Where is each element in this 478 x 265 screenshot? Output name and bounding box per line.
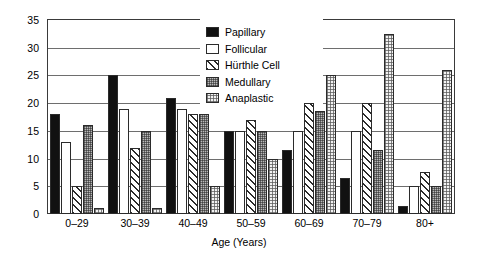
bar xyxy=(304,103,314,214)
bar xyxy=(257,131,267,214)
bar xyxy=(108,75,118,214)
bar-chart: 05101520253035 0–2930–3940–4950–5960–697… xyxy=(0,0,478,265)
bar xyxy=(442,70,452,214)
y-axis: 05101520253035 xyxy=(0,0,47,265)
x-axis-tick-label: 60–69 xyxy=(294,217,323,229)
legend-item: Medullary xyxy=(206,74,318,91)
bar xyxy=(282,150,292,214)
x-axis-tick-label: 0–29 xyxy=(65,217,88,229)
legend: PapillaryFollicularHürthle CellMedullary… xyxy=(200,19,323,112)
bar xyxy=(235,131,245,214)
bar xyxy=(326,75,336,214)
legend-item: Papillary xyxy=(206,24,318,41)
x-axis: 0–2930–3940–4950–5960–6970–7980+ xyxy=(48,217,454,237)
bar xyxy=(141,131,151,214)
bar xyxy=(188,114,198,214)
bar xyxy=(431,186,441,214)
legend-item: Follicular xyxy=(206,41,318,58)
y-axis-tick-label: 25 xyxy=(27,69,39,81)
bar xyxy=(373,150,383,214)
y-axis-tick-label: 35 xyxy=(27,14,39,26)
x-axis-tick-label: 70–79 xyxy=(352,217,381,229)
legend-swatch-icon xyxy=(206,27,219,37)
bar xyxy=(409,186,419,214)
legend-label: Medullary xyxy=(225,76,271,88)
bar xyxy=(398,206,408,214)
bar xyxy=(268,159,278,214)
legend-item: Anaplastic xyxy=(206,90,318,107)
bar xyxy=(83,125,93,214)
bar xyxy=(50,114,60,214)
y-axis-tick-label: 30 xyxy=(27,42,39,54)
bar xyxy=(246,120,256,214)
bar-group xyxy=(108,20,163,214)
bar xyxy=(420,172,430,214)
bar xyxy=(130,148,140,215)
bar-group xyxy=(340,20,395,214)
bar xyxy=(384,34,394,214)
y-axis-tick-label: 20 xyxy=(27,97,39,109)
bar xyxy=(72,186,82,214)
y-axis-tick-label: 5 xyxy=(33,180,39,192)
legend-label: Hürthle Cell xyxy=(225,59,280,71)
legend-label: Anaplastic xyxy=(225,92,273,104)
bar xyxy=(94,208,104,214)
legend-label: Follicular xyxy=(225,43,267,55)
x-axis-tick-label: 30–39 xyxy=(120,217,149,229)
y-axis-tick-label: 15 xyxy=(27,125,39,137)
x-axis-tick-label: 40–49 xyxy=(178,217,207,229)
bar xyxy=(119,109,129,214)
legend-swatch-icon xyxy=(206,44,219,54)
bar xyxy=(315,111,325,214)
y-axis-tick-label: 0 xyxy=(33,208,39,220)
legend-swatch-icon xyxy=(206,60,219,70)
bar xyxy=(210,186,220,214)
bar xyxy=(293,131,303,214)
bar xyxy=(166,98,176,214)
bar xyxy=(362,103,372,214)
legend-swatch-icon xyxy=(206,93,219,103)
bar xyxy=(177,109,187,214)
bar xyxy=(340,178,350,214)
legend-label: Papillary xyxy=(225,26,265,38)
x-axis-title: Age (Years) xyxy=(0,236,478,248)
bar xyxy=(61,142,71,214)
x-axis-tick-label: 50–59 xyxy=(236,217,265,229)
legend-swatch-icon xyxy=(206,77,219,87)
x-axis-tick-label: 80+ xyxy=(416,217,434,229)
bar xyxy=(224,131,234,214)
bar xyxy=(351,131,361,214)
bar xyxy=(199,114,209,214)
bar-group xyxy=(50,20,105,214)
legend-item: Hürthle Cell xyxy=(206,57,318,74)
y-axis-tick-label: 10 xyxy=(27,153,39,165)
bar xyxy=(152,208,162,214)
bar-group xyxy=(398,20,453,214)
